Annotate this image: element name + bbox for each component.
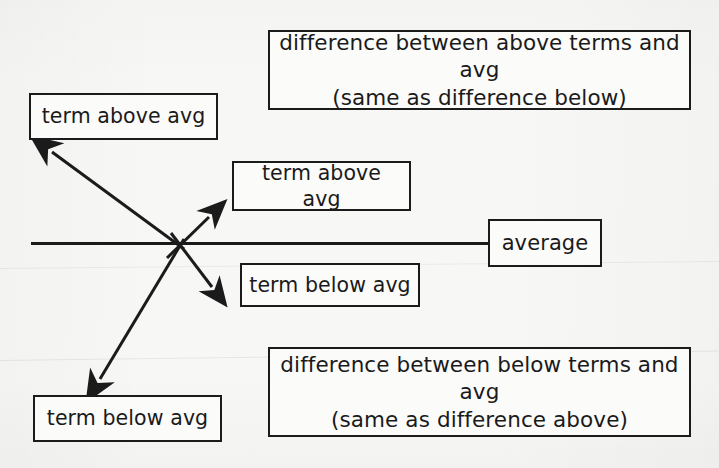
box-average-label: average <box>496 230 595 257</box>
box-term-above-avg-left-label: term above avg <box>36 103 212 129</box>
box-difference-below: difference between below terms and avg(s… <box>268 347 691 437</box>
diagram-canvas: difference between above terms and avg(s… <box>0 0 719 468</box>
box-difference-below-line1: difference between below terms and avg <box>280 352 678 405</box>
box-term-below-avg-middle: term below avg <box>240 263 420 307</box>
short-arrow-down-right <box>171 233 212 287</box>
box-difference-above-label: difference between above terms and avg(s… <box>270 29 689 112</box>
box-term-above-avg-left: term above avg <box>29 93 218 140</box>
box-term-above-avg-middle: term above avg <box>232 161 411 211</box>
box-difference-above: difference between above terms and avg(s… <box>268 30 691 110</box>
box-difference-below-line2: (same as difference above) <box>331 407 628 432</box>
short-arrow-up-right <box>167 217 209 258</box>
box-average: average <box>488 219 602 267</box>
box-term-above-avg-middle-label: term above avg <box>234 160 409 212</box>
box-difference-below-label: difference between below terms and avg(s… <box>270 351 689 434</box>
long-arrow-up-left <box>52 152 184 249</box>
box-term-below-avg-middle-label: term below avg <box>243 272 416 298</box>
box-term-below-avg-bottom-left-label: term below avg <box>41 405 214 431</box>
box-difference-above-line1: difference between above terms and avg <box>279 30 680 83</box>
box-difference-above-line2: (same as difference below) <box>332 85 627 110</box>
long-arrow-down-left <box>100 239 184 379</box>
box-term-below-avg-bottom-left: term below avg <box>33 395 222 442</box>
